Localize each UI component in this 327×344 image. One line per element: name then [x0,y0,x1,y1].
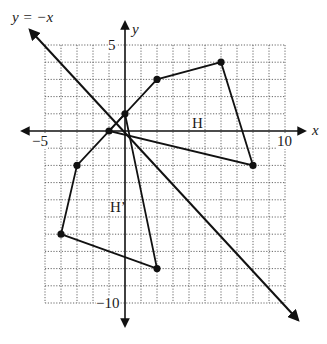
vertex-point [57,231,64,238]
x-tick-max: 10 [277,134,292,149]
y-tick-max: 5 [108,38,116,53]
shape-h [109,62,253,165]
x-axis-label: x [312,123,319,138]
reflection-line-label: y = −x [12,10,53,25]
shape-h-prime-label: H’ [110,200,126,215]
y-tick-min: −10 [96,296,119,311]
vertex-point [153,76,160,83]
vertex-point [153,265,160,272]
vertex-point [121,110,128,117]
x-tick-min: −5 [32,134,48,149]
plot-canvas [0,0,327,344]
shape-h-label: H [192,116,203,131]
vertex-point [73,162,80,169]
vertex-point [249,162,256,169]
reflection-line-y-equals-neg-x [30,30,298,320]
vertex-point [217,59,224,66]
y-axis-label: y [132,22,139,37]
coordinate-plane-figure: y = −x y x 5 −5 10 −10 H H’ [0,0,327,344]
